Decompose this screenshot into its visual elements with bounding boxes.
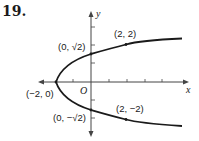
point-2-neg2-marker: [125, 118, 128, 121]
x-axis-left-arrow-icon: [38, 80, 44, 85]
point-label-2-2: (2, 2): [114, 28, 136, 39]
point-label-0-neg-sqrt2: (0, −√2): [53, 112, 86, 123]
point-0-neg-sqrt2-marker: [90, 109, 93, 112]
parabola-diagram: y x O (2, 2) (0, √2) (−2, 0) (0, −√2) (2…: [0, 0, 199, 141]
point-label-vertex: (−2, 0): [26, 88, 54, 99]
y-axis-up-arrow-icon: [89, 11, 94, 17]
point-vertex-marker: [55, 81, 58, 84]
point-label-0-sqrt2: (0, √2): [58, 41, 85, 52]
y-axis-down-arrow-icon: [89, 131, 94, 137]
y-axis-label: y: [95, 8, 101, 19]
origin-label: O: [80, 85, 87, 96]
x-axis: [38, 79, 189, 85]
point-label-2-neg2: (2, −2): [116, 103, 144, 114]
point-2-2-marker: [125, 43, 128, 46]
point-0-sqrt2-marker: [90, 53, 93, 56]
x-axis-label: x: [185, 84, 191, 95]
y-axis: [89, 11, 96, 137]
